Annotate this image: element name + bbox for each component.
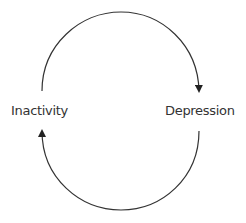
node-inactivity: Inactivity bbox=[11, 103, 68, 118]
node-depression: Depression bbox=[165, 103, 235, 118]
upper-arc-arrow bbox=[42, 12, 199, 91]
lower-arc-arrow bbox=[42, 131, 199, 210]
